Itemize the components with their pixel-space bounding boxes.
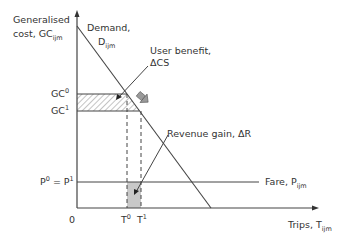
user-benefit-pointer (119, 66, 148, 97)
user-benefit-label-line1: User benefit, (150, 45, 211, 56)
origin-label: 0 (69, 214, 75, 225)
x-axis-label: Trips, Tijm (287, 219, 332, 233)
t0-label: T0 (120, 213, 131, 225)
consumer-surplus-diagram: Generalised cost, GCijm Demand, Dijm Use… (0, 0, 350, 243)
demand-label-line1: Demand, (87, 22, 130, 33)
x-axis-arrow-icon (312, 206, 319, 211)
y-axis-label-line1: Generalised (13, 14, 70, 25)
demand-label-line2: Dijm (98, 36, 115, 50)
revenue-gain-label: Revenue gain, ΔR (167, 128, 251, 139)
y-axis-label-line2: cost, GCijm (13, 28, 63, 42)
demand-shift-arrow-icon (135, 90, 152, 107)
y-axis-arrow-icon (75, 10, 80, 17)
price-label: P0 = P1 (40, 175, 74, 187)
gc1-label: GC1 (51, 104, 69, 116)
user-benefit-area (77, 94, 139, 111)
fare-label: Fare, Pijm (265, 176, 307, 190)
user-benefit-label-line2: ΔCS (150, 57, 169, 68)
gc0-label: GC0 (51, 87, 69, 99)
t1-label: T1 (136, 213, 147, 225)
